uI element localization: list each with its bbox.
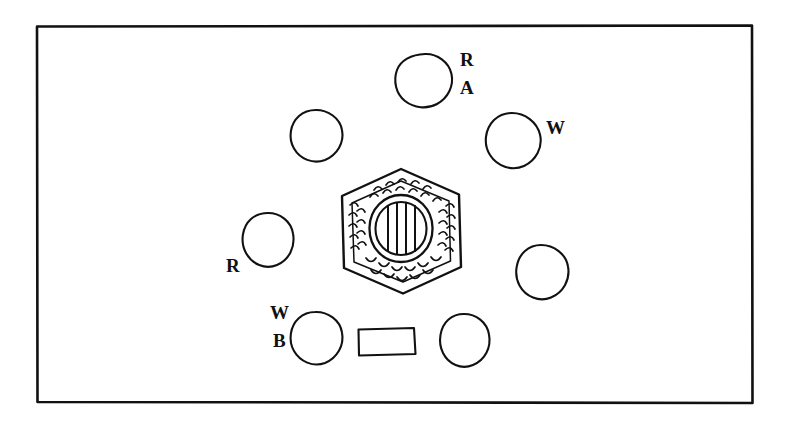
stone-circle-upper-right — [486, 113, 541, 168]
label-ra-a: A — [460, 78, 474, 97]
central-hexagonal-feature — [342, 169, 461, 294]
label-wb-w: W — [270, 303, 289, 322]
stone-circle-upper-left — [291, 110, 343, 162]
rectangular-slab — [359, 328, 416, 356]
site-plan-figure: R A W R W B — [0, 0, 786, 427]
label-ra-r: R — [460, 50, 474, 69]
inner-ring — [369, 195, 432, 262]
label-wb-b: B — [273, 331, 286, 350]
stone-circle-lower-right — [440, 314, 489, 367]
label-r-left: R — [226, 256, 240, 275]
stone-circle-top — [395, 54, 452, 107]
stone-circle-right — [516, 245, 568, 299]
drawing-canvas — [0, 0, 786, 427]
label-w-right: W — [546, 118, 565, 137]
striped-disc — [375, 202, 426, 255]
stone-circle-left — [243, 213, 294, 267]
stone-circle-lower-left — [291, 312, 343, 365]
